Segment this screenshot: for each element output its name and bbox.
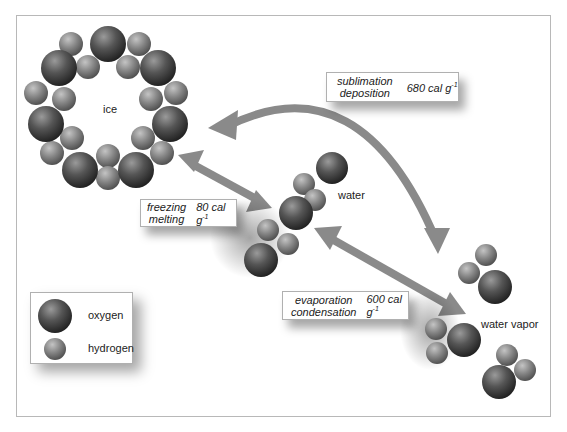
- legend-oxygen-label: oxygen: [88, 309, 123, 321]
- sublimation-energy: 680 cal g-1: [407, 81, 458, 94]
- legend: oxygen hydrogen: [30, 292, 133, 364]
- water-vapor-label: water vapor: [481, 318, 538, 330]
- condensation-label: condensation: [291, 306, 356, 318]
- evaporation-condensation-box: evaporation condensation 600 cal g-1: [282, 291, 409, 320]
- diagram-canvas: [0, 0, 567, 432]
- sublimation-label: sublimation: [337, 75, 393, 87]
- deposition-label: deposition: [340, 87, 390, 99]
- sublimation-deposition-box: sublimation deposition 680 cal g-1: [326, 72, 459, 102]
- water-label: water: [338, 189, 365, 201]
- freezing-energy: 80 cal g-1: [196, 201, 236, 226]
- legend-icons: [35, 293, 75, 363]
- hydrogen-sphere-icon: [44, 338, 66, 360]
- evaporation-energy: 600 cal g-1: [366, 293, 408, 318]
- freezing-label: freezing: [147, 201, 186, 213]
- ice-label: ice: [103, 103, 117, 115]
- legend-hydrogen-label: hydrogen: [88, 342, 134, 354]
- evaporation-label: evaporation: [295, 294, 353, 306]
- oxygen-sphere-icon: [38, 299, 72, 333]
- freezing-melting-box: freezing melting 80 cal g-1: [140, 199, 237, 227]
- melting-label: melting: [149, 213, 184, 225]
